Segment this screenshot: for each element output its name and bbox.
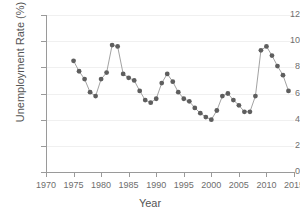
data-point [126,75,131,80]
data-point [99,77,104,82]
data-point [198,111,203,116]
data-point [154,96,159,101]
data-point [165,71,170,76]
data-point [242,109,247,114]
data-point [137,88,142,93]
data-point [192,105,197,110]
data-point [148,100,153,105]
data-point [286,88,291,93]
data-point [88,90,93,95]
data-point [259,48,264,53]
data-point [159,81,164,86]
data-point [236,103,241,108]
data-point [176,90,181,95]
data-point [248,109,253,114]
data-point [132,78,137,83]
data-point [115,44,120,49]
data-point [77,69,82,74]
data-point [203,115,208,120]
data-point [264,44,269,49]
data-point [170,79,175,84]
data-point [181,96,186,101]
x-axis-title: Year [0,197,300,209]
data-point [93,94,98,99]
y-axis-title: Unemployment Rate (%) [14,0,26,142]
data-series [0,0,300,219]
data-point [214,108,219,113]
data-point [209,117,214,122]
data-point [104,70,109,75]
series-line [74,45,289,120]
data-point [187,99,192,104]
data-point [121,71,126,76]
data-point [253,94,258,99]
data-point [270,53,275,58]
data-point [110,43,115,48]
data-point [82,77,87,82]
data-point [275,64,280,69]
data-point [231,98,236,103]
data-point [143,98,148,103]
data-point [281,73,286,78]
data-point [71,58,76,63]
unemployment-rate-chart: 12 10 8 6 4 2 0 1970 1975 1980 1985 1990… [0,0,300,219]
data-point [225,91,230,96]
data-point [220,94,225,99]
